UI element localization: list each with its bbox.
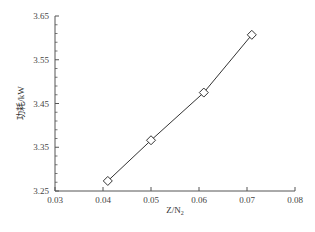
x-tick-label: 0.04 — [95, 195, 111, 205]
series-line — [108, 35, 252, 181]
x-tick-label: 0.03 — [47, 195, 63, 205]
x-axis-title: Z/N2 — [166, 205, 184, 216]
y-axis-title: 功耗/kW — [16, 86, 26, 120]
axes — [55, 16, 295, 191]
axis-ticks: 3.253.353.453.553.650.030.040.050.060.07… — [33, 11, 303, 205]
y-tick-label: 3.35 — [33, 142, 49, 152]
x-tick-label: 0.07 — [239, 195, 255, 205]
y-tick-label: 3.65 — [33, 11, 49, 21]
y-tick-label: 3.45 — [33, 99, 49, 109]
line-chart: 3.253.353.453.553.650.030.040.050.060.07… — [0, 0, 315, 232]
y-tick-label: 3.55 — [33, 55, 49, 65]
data-series — [103, 30, 256, 185]
x-tick-label: 0.06 — [191, 195, 207, 205]
x-tick-label: 0.08 — [287, 195, 303, 205]
x-tick-label: 0.05 — [143, 195, 159, 205]
